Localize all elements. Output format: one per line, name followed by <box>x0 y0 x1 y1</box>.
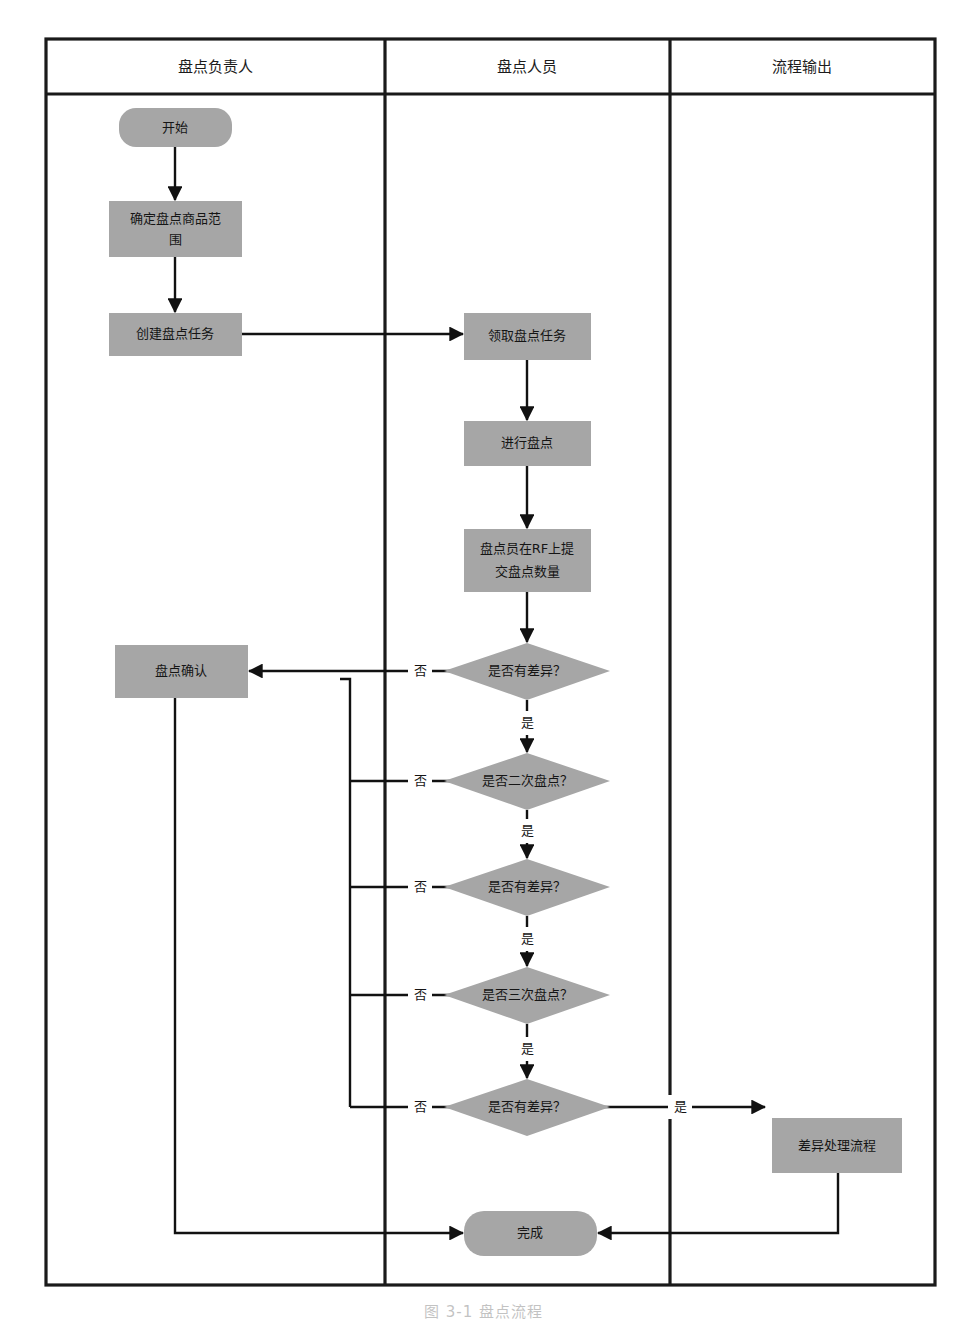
node-do-count-label: 进行盘点 <box>501 435 553 450</box>
node-confirm-label: 盘点确认 <box>155 663 207 678</box>
node-scope-label-line1: 确定盘点商品范 <box>130 211 221 226</box>
node-decision-diff-3[interactable]: 是否有差异？ <box>444 1079 610 1136</box>
edge-label-no-5: 否 <box>414 1099 427 1114</box>
edge-label-yes-5: 是 <box>674 1099 687 1114</box>
node-scope[interactable]: 确定盘点商品范 围 <box>109 201 242 257</box>
node-create-task-label: 创建盘点任务 <box>136 326 214 341</box>
node-done-label: 完成 <box>517 1225 543 1240</box>
node-decision-second-count-label: 是否二次盘点？ <box>482 773 573 788</box>
node-decision-third-count[interactable]: 是否三次盘点？ <box>444 967 610 1024</box>
node-decision-second-count[interactable]: 是否二次盘点？ <box>444 753 610 810</box>
figure-caption: 图 3-1 盘点流程 <box>0 1300 967 1321</box>
edge-label-yes-3: 是 <box>521 931 534 946</box>
node-submit-rf-label-line1: 盘点员在RF上提 <box>480 541 575 556</box>
node-confirm[interactable]: 盘点确认 <box>115 645 248 698</box>
node-decision-diff-2-label: 是否有差异？ <box>488 879 566 894</box>
node-create-task[interactable]: 创建盘点任务 <box>109 313 242 356</box>
edge-label-yes-4: 是 <box>521 1041 534 1056</box>
node-receive-task-label: 领取盘点任务 <box>488 328 566 343</box>
edge-label-no-3: 否 <box>414 879 427 894</box>
lane-header-output: 流程输出 <box>772 58 832 76</box>
node-done[interactable]: 完成 <box>464 1211 597 1256</box>
node-decision-third-count-label: 是否三次盘点？ <box>482 987 573 1002</box>
node-submit-rf-label-line2: 交盘点数量 <box>495 564 560 579</box>
edge-no-rail <box>340 679 350 1107</box>
edge-label-yes-2: 是 <box>521 823 534 838</box>
node-receive-task[interactable]: 领取盘点任务 <box>464 313 591 360</box>
edge-discrepancy-to-done <box>598 1173 838 1233</box>
node-scope-label-line2: 围 <box>169 232 182 247</box>
lane-header-staff: 盘点人员 <box>497 58 557 76</box>
node-submit-rf[interactable]: 盘点员在RF上提 交盘点数量 <box>464 529 591 592</box>
flowchart-canvas: 盘点负责人 盘点人员 流程输出 <box>0 0 967 1326</box>
node-start-label: 开始 <box>162 120 188 135</box>
node-discrepancy-process-label: 差异处理流程 <box>798 1138 876 1153</box>
edge-label-no-2: 否 <box>414 773 427 788</box>
edge-label-no-4: 否 <box>414 987 427 1002</box>
node-discrepancy-process[interactable]: 差异处理流程 <box>772 1118 902 1173</box>
lane-header-owner: 盘点负责人 <box>178 58 253 76</box>
edge-label-no-1: 否 <box>414 663 427 678</box>
node-decision-diff-3-label: 是否有差异？ <box>488 1099 566 1114</box>
node-start[interactable]: 开始 <box>119 108 232 147</box>
edge-label-yes-1: 是 <box>521 715 534 730</box>
node-decision-diff-1-label: 是否有差异？ <box>488 663 566 678</box>
flowchart-page: 盘点负责人 盘点人员 流程输出 <box>0 0 967 1326</box>
node-do-count[interactable]: 进行盘点 <box>464 421 591 466</box>
node-decision-diff-1[interactable]: 是否有差异？ <box>444 643 610 700</box>
node-decision-diff-2[interactable]: 是否有差异？ <box>444 859 610 916</box>
